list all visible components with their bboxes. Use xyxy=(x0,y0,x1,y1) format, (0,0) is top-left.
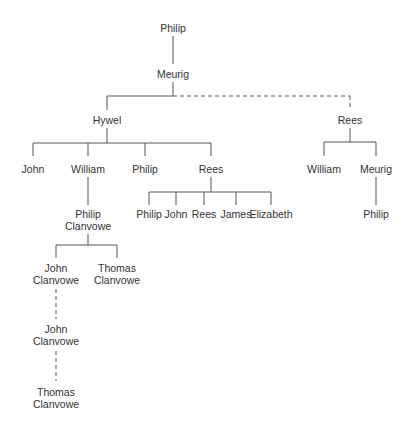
node-rees-child-philip: Philip xyxy=(136,208,162,220)
node-john-clanvowe-1: JohnClanvowe xyxy=(33,262,79,286)
node-rees-child-james: James xyxy=(221,208,252,220)
node-thomas-clanvowe-1: ThomasClanvowe xyxy=(94,262,140,286)
node-john-clanvowe-2: JohnClanvowe xyxy=(33,323,79,347)
node-william: William xyxy=(71,163,105,175)
node-rees: Rees xyxy=(199,163,224,175)
node-meurig: Meurig xyxy=(157,68,189,80)
node-rees-right: Rees xyxy=(338,114,363,126)
node-philip-clanvowe: PhilipClanvowe xyxy=(65,208,111,232)
node-meurig-right: Meurig xyxy=(360,163,392,175)
node-rees-child-rees: Rees xyxy=(192,208,217,220)
node-john: John xyxy=(22,163,45,175)
node-william-right: William xyxy=(307,163,341,175)
node-philip-right: Philip xyxy=(363,208,389,220)
node-thomas-clanvowe-2: ThomasClanvowe xyxy=(33,386,79,410)
node-hywel: Hywel xyxy=(93,114,122,126)
node-rees-child-elizabeth: Elizabeth xyxy=(249,208,292,220)
node-rees-child-john: John xyxy=(165,208,188,220)
node-philip-root: Philip xyxy=(160,22,186,34)
node-philip: Philip xyxy=(132,163,158,175)
